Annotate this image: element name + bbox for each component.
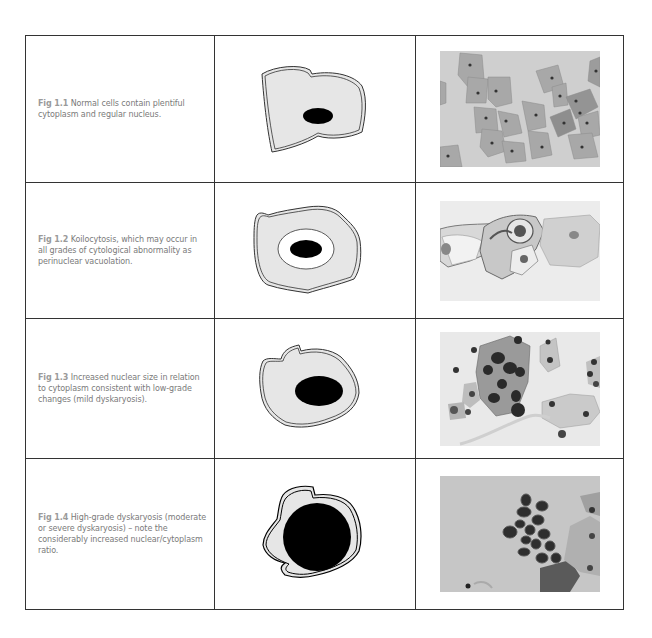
- photo-cell: [416, 183, 624, 319]
- normal-cell-diagram-icon: [250, 54, 380, 164]
- photo-cell: [416, 319, 624, 459]
- diagram-cell: [215, 183, 416, 319]
- figure-row: Fig 1.1 Normal cells contain plentiful c…: [26, 36, 624, 183]
- normal-cells-micrograph: [440, 51, 600, 167]
- high-grade-dyskaryosis-micrograph: [440, 476, 600, 592]
- figure-caption: Fig 1.4 High-grade dyskaryosis (moderate…: [26, 512, 214, 556]
- figure-row: Fig 1.4 High-grade dyskaryosis (moderate…: [26, 459, 624, 610]
- low-grade-dyskaryosis-micrograph: [440, 332, 600, 446]
- koilocytosis-micrograph: [440, 201, 600, 301]
- photo-cell: [416, 36, 624, 183]
- figure-label: Fig 1.3: [38, 373, 68, 382]
- caption-cell: Fig 1.3 Increased nuclear size in relati…: [26, 319, 215, 459]
- caption-cell: Fig 1.1 Normal cells contain plentiful c…: [26, 36, 215, 183]
- figure-label: Fig 1.2: [38, 235, 68, 244]
- diagram-cell: [215, 459, 416, 610]
- high-grade-cell-diagram-icon: [255, 479, 375, 589]
- figure-label: Fig 1.4: [38, 513, 68, 522]
- figure-caption: Fig 1.2 Koilocytosis, which may occur in…: [26, 234, 214, 267]
- diagram-cell: [215, 319, 416, 459]
- figure-caption: Fig 1.1 Normal cells contain plentiful c…: [26, 98, 214, 120]
- low-grade-cell-diagram-icon: [255, 339, 375, 439]
- caption-cell: Fig 1.4 High-grade dyskaryosis (moderate…: [26, 459, 215, 610]
- figure-label: Fig 1.1: [38, 99, 68, 108]
- figure-row: Fig 1.2 Koilocytosis, which may occur in…: [26, 183, 624, 319]
- figure-row: Fig 1.3 Increased nuclear size in relati…: [26, 319, 624, 459]
- photo-cell: [416, 459, 624, 610]
- koilocyte-cell-diagram-icon: [250, 201, 380, 301]
- caption-cell: Fig 1.2 Koilocytosis, which may occur in…: [26, 183, 215, 319]
- diagram-cell: [215, 36, 416, 183]
- figure-table: Fig 1.1 Normal cells contain plentiful c…: [25, 35, 624, 610]
- figure-caption: Fig 1.3 Increased nuclear size in relati…: [26, 372, 214, 405]
